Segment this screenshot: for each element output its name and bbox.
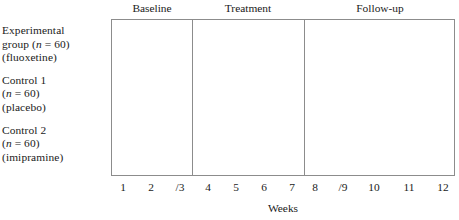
group-label-line: group (n = 60) [2,38,108,52]
week-tick-label: 8 [312,180,318,195]
group-label-line: (imipramine) [2,151,108,165]
week-tick-label: 1 [120,180,126,195]
week-tick-label: 11 [404,180,415,195]
phase-header-follow-up: Follow-up [320,1,440,15]
group-label-line: (n = 60) [2,137,108,151]
phase-divider-line [192,19,193,176]
study-design-figure: Experimentalgroup (n = 60)(fluoxetine)Co… [0,0,459,220]
group-label-text: (fluoxetine) [2,51,57,63]
phase-divider-line [304,19,305,176]
design-box [111,19,455,176]
group-label-text: Control 2 [2,124,46,136]
week-tick-label: 10 [368,180,379,195]
week-tick-label: 5 [233,180,239,195]
sample-size-value: = 60) [12,87,40,99]
group-label-text: Control 1 [2,74,46,86]
group-labels: Experimentalgroup (n = 60)(fluoxetine)Co… [2,24,108,173]
week-tick-label: 2 [148,180,154,195]
group-label-line: (fluoxetine) [2,51,108,65]
group-label-line: Control 1 [2,74,108,88]
week-tick-labels: 12/345678/9101112 [111,180,455,196]
group-label-line: (n = 60) [2,87,108,101]
control-1-group: Control 1(n = 60)(placebo) [2,74,108,115]
week-tick-label: 6 [261,180,267,195]
sample-size-value: = 60) [42,38,70,50]
week-tick-label: /9 [339,180,348,195]
control-2-group: Control 2(n = 60)(imipramine) [2,124,108,165]
group-label-line: Control 2 [2,124,108,138]
group-label-text: (imipramine) [2,151,63,163]
group-label-text: group ( [2,38,36,50]
group-label-line: (placebo) [2,101,108,115]
week-tick-label: 4 [205,180,211,195]
experimental-group: Experimentalgroup (n = 60)(fluoxetine) [2,24,108,65]
group-label-text: (placebo) [2,101,46,113]
week-tick-label: 12 [437,180,448,195]
week-tick-label: 7 [289,180,295,195]
phase-header-treatment: Treatment [188,1,308,15]
group-label-text: Experimental [2,24,65,36]
sample-size-value: = 60) [12,137,40,149]
group-label-line: Experimental [2,24,108,38]
x-axis-title: Weeks [111,201,455,215]
week-tick-label: /3 [176,180,185,195]
